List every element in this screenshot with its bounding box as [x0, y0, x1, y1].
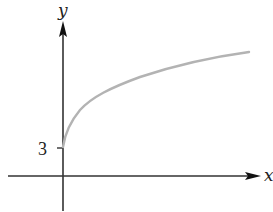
x-axis-label: x [264, 165, 273, 185]
x-axis [8, 172, 261, 180]
y-axis-label: y [57, 0, 68, 20]
graph-figure: y x 3 [0, 0, 273, 212]
y-axis [59, 21, 67, 211]
y-intercept-label: 3 [38, 139, 47, 159]
function-curve [63, 52, 249, 147]
